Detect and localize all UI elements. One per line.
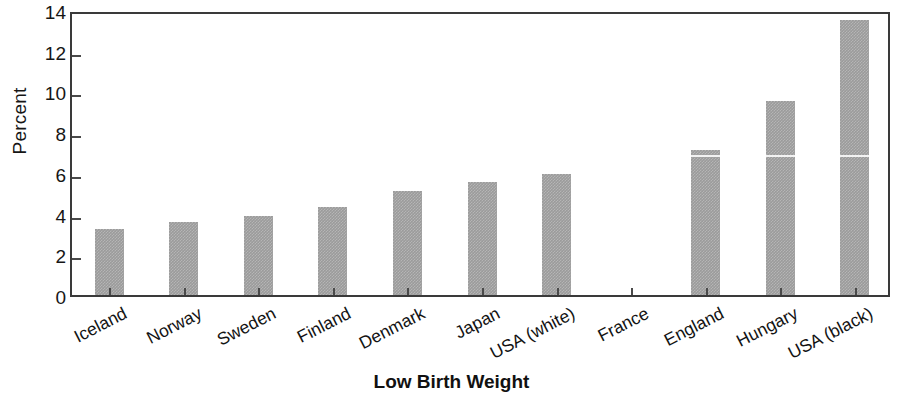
- bar: [542, 174, 571, 295]
- bar: [318, 207, 347, 295]
- y-axis-tick-label: 14: [45, 3, 66, 22]
- y-axis-tick-label: 4: [55, 206, 66, 225]
- plot-inner: [72, 14, 888, 295]
- x-axis-title: Low Birth Weight: [0, 371, 903, 393]
- scan-artifact-line: [766, 155, 795, 157]
- y-axis-tick-label: 6: [55, 165, 66, 184]
- y-axis-tick-mark: [72, 95, 81, 97]
- x-axis-tick-mark: [109, 288, 111, 295]
- bar: [691, 150, 720, 295]
- y-axis-tick-mark: [72, 136, 81, 138]
- y-axis-tick-mark: [72, 258, 81, 260]
- bar: [766, 101, 795, 295]
- y-axis-tick-label: 8: [55, 125, 66, 144]
- x-axis-tick-mark: [706, 288, 708, 295]
- x-axis-tick-mark: [333, 288, 335, 295]
- scan-artifact-line: [840, 155, 869, 157]
- y-axis-tick-label: 10: [45, 84, 66, 103]
- y-axis-tick-mark: [72, 218, 81, 220]
- x-axis-tick-mark: [780, 288, 782, 295]
- plot-area: [70, 12, 890, 297]
- x-axis-tick-mark: [557, 288, 559, 295]
- y-axis-tick-mark: [72, 55, 81, 57]
- x-axis-tick-mark: [631, 288, 633, 295]
- bar: [169, 222, 198, 295]
- bar: [95, 229, 124, 295]
- x-axis-tick-mark: [855, 288, 857, 295]
- scan-artifact-line: [691, 155, 720, 157]
- y-axis-tick-mark: [72, 177, 81, 179]
- x-axis-tick-mark: [258, 288, 260, 295]
- y-axis-tick-labels: 02468101214: [14, 0, 66, 383]
- bar: [468, 182, 497, 295]
- x-axis-tick-mark: [184, 288, 186, 295]
- y-axis-tick-label: 12: [45, 43, 66, 62]
- bar: [840, 20, 869, 295]
- x-axis-tick-mark: [482, 288, 484, 295]
- x-axis-tick-mark: [407, 288, 409, 295]
- x-axis-category-labels: IcelandNorwaySwedenFinlandDenmarkJapanUS…: [70, 297, 890, 367]
- y-axis-tick-label: 0: [55, 288, 66, 307]
- bar: [244, 216, 273, 295]
- y-axis-tick-label: 2: [55, 247, 66, 266]
- bar: [393, 191, 422, 295]
